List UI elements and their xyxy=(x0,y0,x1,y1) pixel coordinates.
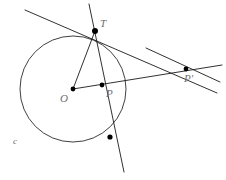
secondary-line-through-p-prime xyxy=(146,48,220,82)
point-marker-p-prime xyxy=(184,67,189,72)
label-circle-c: c xyxy=(13,137,17,146)
geometry-canvas xyxy=(0,0,226,180)
point-marker-o xyxy=(71,87,76,92)
label-t: T xyxy=(100,18,106,29)
geometry-figure: T O P P' c xyxy=(0,0,226,180)
point-marker-p xyxy=(100,83,105,88)
label-o: O xyxy=(60,93,68,104)
label-p-prime: P' xyxy=(184,73,193,84)
point-marker-t xyxy=(92,28,98,34)
radius-segment-ot xyxy=(73,31,95,89)
label-p: P xyxy=(106,88,113,99)
point-marker-lower-intersection xyxy=(107,134,112,139)
